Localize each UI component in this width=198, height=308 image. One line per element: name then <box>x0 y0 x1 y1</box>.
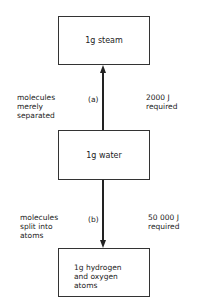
steam-box: 1g steam <box>58 16 150 65</box>
hydrogen-oxygen-box: 1g hydrogen and oxygen atoms <box>58 248 150 297</box>
hydrogen-oxygen-label: 1g hydrogen and oxygen atoms <box>74 263 122 290</box>
arrow-down-icon <box>100 240 106 248</box>
water-label: 1g water <box>86 151 122 160</box>
transition-b-line <box>102 180 104 240</box>
steam-label: 1g steam <box>85 36 123 45</box>
transition-a-label: (a) <box>88 95 98 104</box>
transition-b-energy: 50 000 J required <box>148 213 179 231</box>
arrow-up-icon <box>100 65 106 73</box>
water-box: 1g water <box>58 130 150 180</box>
transition-a-description: molecules merely separated <box>17 93 55 120</box>
transition-b-description: molecules split into atoms <box>20 213 58 240</box>
transition-a-energy: 2000 J required <box>146 93 177 111</box>
transition-a-line <box>102 72 104 130</box>
transition-b-label: (b) <box>88 215 99 224</box>
